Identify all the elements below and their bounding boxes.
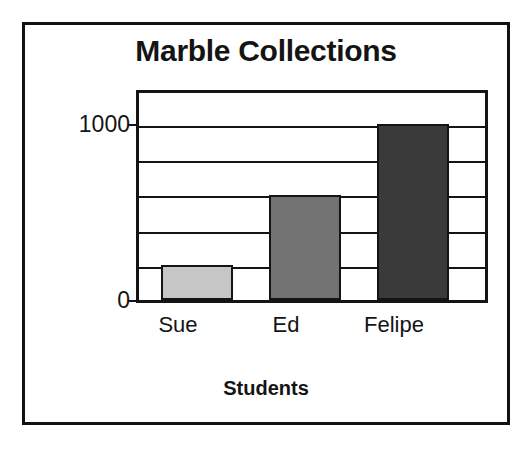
x-tick-label-felipe: Felipe xyxy=(338,313,450,337)
plot-inner xyxy=(139,93,485,300)
x-tick-label-ed: Ed xyxy=(230,313,342,337)
y-tick-label-1000: 1000 xyxy=(38,113,130,136)
bar-ed[interactable] xyxy=(269,195,341,300)
chart-title: Marble Collections xyxy=(0,34,532,68)
x-tick-label-sue: Sue xyxy=(122,313,234,337)
bar-sue[interactable] xyxy=(161,265,233,300)
bar-felipe[interactable] xyxy=(377,124,449,300)
plot-area xyxy=(136,90,488,303)
y-tick-label-0: 0 xyxy=(38,289,130,312)
x-axis-title: Students xyxy=(0,377,532,400)
bar-chart-figure: Marble Collections Number of Marbles 100… xyxy=(0,0,532,449)
